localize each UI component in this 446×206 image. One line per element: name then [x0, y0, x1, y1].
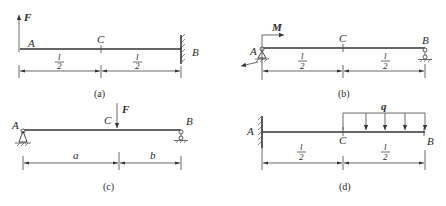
svg-text:2: 2 — [57, 61, 62, 71]
point-label-a: A — [11, 119, 19, 131]
figure-a: F A C B l 2 l 2 (a) — [19, 11, 199, 100]
figure-c: A F C B a b (c) — [11, 103, 193, 193]
roller-support-icon — [418, 48, 432, 62]
svg-text:l: l — [384, 142, 387, 152]
point-label-c: C — [339, 32, 347, 44]
point-label-b: B — [192, 46, 199, 58]
point-label-c: C — [339, 134, 347, 146]
pin-support-icon — [15, 129, 31, 146]
figure-caption: (b) — [338, 88, 350, 100]
svg-text:2: 2 — [135, 61, 140, 71]
svg-text:l: l — [300, 142, 303, 152]
svg-text:2: 2 — [299, 152, 304, 162]
point-label-b: B — [186, 115, 193, 127]
svg-text:2: 2 — [383, 152, 388, 162]
point-label-c: C — [104, 114, 112, 126]
svg-text:l: l — [384, 51, 387, 61]
point-label-a: A — [27, 37, 35, 49]
dimension-label: l 2 — [133, 52, 142, 71]
svg-text:2: 2 — [383, 61, 388, 71]
load-label: F — [121, 103, 130, 115]
svg-text:2: 2 — [300, 61, 305, 71]
dimension-label: l 2 — [381, 51, 390, 71]
point-label-a: A — [249, 45, 257, 57]
load-label: M — [271, 21, 283, 33]
dimension-label: l 2 — [298, 51, 307, 71]
moment-arrow-icon — [262, 35, 284, 48]
dimension-label: l 2 — [381, 142, 390, 162]
dimension-label: l 2 — [297, 142, 306, 162]
dimension-label: l 2 — [55, 52, 64, 71]
svg-text:l: l — [301, 51, 304, 61]
point-label-b: B — [422, 34, 429, 46]
roller-support-icon — [174, 130, 188, 143]
figure-caption: (d) — [339, 181, 351, 193]
fixed-support-icon — [258, 116, 262, 148]
figure-caption: (a) — [94, 88, 105, 100]
load-label: F — [23, 11, 32, 23]
figure-b: M A C B l — [241, 21, 432, 100]
point-label-b: B — [427, 135, 434, 147]
reaction-arrow-icon — [241, 62, 258, 66]
dimension-label: b — [150, 149, 156, 161]
distributed-load-icon — [343, 113, 425, 130]
fixed-support-icon — [181, 34, 185, 64]
load-label: q — [381, 100, 387, 112]
dimension-label: a — [73, 149, 79, 161]
figure-caption: (c) — [103, 181, 114, 193]
point-label-c: C — [97, 33, 105, 45]
point-label-a: A — [246, 125, 254, 137]
figure-d: A q C B l 2 l 2 (d) — [246, 100, 434, 193]
